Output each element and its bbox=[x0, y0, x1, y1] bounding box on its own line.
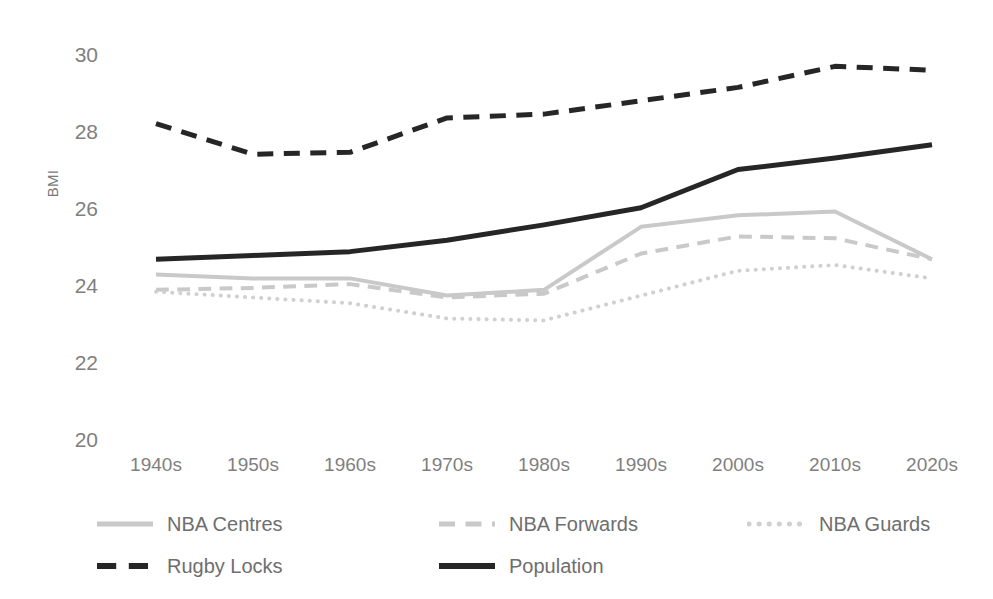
legend-item-nba-guards[interactable]: NBA Guards bbox=[747, 504, 975, 544]
chart-legend: NBA Centres NBA Forwards NBA Guards Rugb… bbox=[95, 500, 975, 592]
legend-item-rugby-locks[interactable]: Rugby Locks bbox=[95, 546, 437, 586]
x-axis-tick-2010s: 2010s bbox=[787, 455, 883, 474]
legend-item-nba-forwards[interactable]: NBA Forwards bbox=[437, 504, 747, 544]
legend-item-nba-centres[interactable]: NBA Centres bbox=[95, 504, 437, 544]
legend-row: Rugby Locks Population bbox=[95, 546, 975, 586]
x-axis-tick-1960s: 1960s bbox=[302, 455, 398, 474]
y-axis-tick-28: 28 bbox=[52, 121, 98, 142]
series-line-rugby-locks bbox=[156, 66, 932, 154]
bmi-line-chart: BMI 30 28 26 24 22 20 1940s 1950s 1960s … bbox=[0, 0, 993, 599]
legend-line-icon-rugby-locks bbox=[95, 559, 155, 573]
legend-line-icon-nba-guards bbox=[747, 517, 807, 531]
y-axis-tick-30: 30 bbox=[52, 44, 98, 65]
y-axis-tick-20: 20 bbox=[52, 429, 98, 450]
legend-label: NBA Centres bbox=[167, 514, 283, 534]
legend-row: NBA Centres NBA Forwards NBA Guards bbox=[95, 504, 975, 544]
x-axis-tick-1940s: 1940s bbox=[108, 455, 204, 474]
x-axis-tick-1980s: 1980s bbox=[496, 455, 592, 474]
y-axis-tick-22: 22 bbox=[52, 352, 98, 373]
legend-label: Rugby Locks bbox=[167, 556, 283, 576]
x-axis-tick-1950s: 1950s bbox=[205, 455, 301, 474]
legend-line-icon-population bbox=[437, 559, 497, 573]
x-axis-tick-1990s: 1990s bbox=[593, 455, 689, 474]
y-axis-tick-26: 26 bbox=[52, 198, 98, 219]
y-axis-tick-24: 24 bbox=[52, 275, 98, 296]
series-line-population bbox=[156, 145, 932, 260]
plot-area bbox=[0, 0, 993, 470]
legend-label: Population bbox=[509, 556, 604, 576]
legend-label: NBA Forwards bbox=[509, 514, 638, 534]
x-axis-tick-1970s: 1970s bbox=[399, 455, 495, 474]
legend-line-icon-nba-forwards bbox=[437, 517, 497, 531]
legend-label: NBA Guards bbox=[819, 514, 930, 534]
legend-line-icon-nba-centres bbox=[95, 517, 155, 531]
chart-canvas bbox=[0, 0, 993, 470]
legend-item-population[interactable]: Population bbox=[437, 546, 747, 586]
x-axis-tick-2020s: 2020s bbox=[884, 455, 980, 474]
x-axis-tick-2000s: 2000s bbox=[690, 455, 786, 474]
